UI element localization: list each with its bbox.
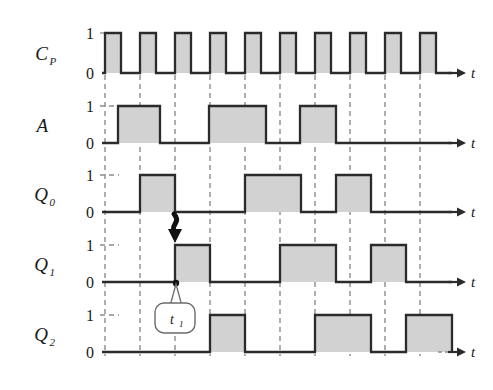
waveform-fill [102, 175, 452, 212]
level-low-digit: 0 [86, 344, 94, 361]
level-high-digit: 1 [86, 167, 94, 184]
level-low-digit: 0 [86, 65, 94, 82]
waveforms [102, 33, 452, 352]
signal-sublabel-q2: 2 [50, 336, 56, 348]
level-low-digit: 0 [86, 135, 94, 152]
signal-label-q2: Q [34, 324, 48, 345]
level-high-digit: 1 [86, 307, 94, 324]
level-high-digit: 1 [86, 98, 94, 115]
time-axis-label: t [471, 274, 476, 290]
signal-sublabel-q1: 1 [50, 266, 56, 278]
waveform-fill [102, 245, 452, 282]
time-axis-label: t [471, 204, 476, 220]
level-high-digit: 1 [86, 237, 94, 254]
signal-sublabel-q0: 0 [50, 196, 56, 208]
time-axis-label: t [471, 344, 476, 360]
level-low-digit: 0 [86, 274, 94, 291]
signal-labels: 10CP10A10Q010Q110Q2 [34, 25, 94, 361]
time-axis-arrowhead [457, 139, 466, 148]
level-high-digit: 1 [86, 25, 94, 42]
callout-bubble [155, 303, 195, 333]
causality-arrow-head [168, 229, 182, 243]
time-axis-arrowhead [457, 278, 466, 287]
waveform-fill [102, 33, 452, 73]
timing-diagram-svg: ttttt 10CP10A10Q010Q110Q2 t1 [0, 0, 493, 390]
level-dashes [100, 33, 119, 315]
time-axis-arrowhead [457, 208, 466, 217]
signal-label-q0: Q [34, 184, 48, 205]
time-axis-arrowhead [457, 69, 466, 78]
time-axis-arrowhead [457, 348, 466, 357]
time-axis-label: t [471, 65, 476, 81]
level-low-digit: 0 [86, 204, 94, 221]
signal-sublabel-cp: P [49, 55, 57, 67]
waveform-fill [102, 106, 452, 143]
signal-label-a: A [34, 115, 48, 136]
time-axis-label: t [471, 135, 476, 151]
callout-sublabel: 1 [179, 319, 184, 329]
signal-label-cp: C [35, 43, 48, 64]
signal-label-q1: Q [34, 254, 48, 275]
timing-diagram-figure: ttttt 10CP10A10Q010Q110Q2 t1 [0, 0, 493, 390]
